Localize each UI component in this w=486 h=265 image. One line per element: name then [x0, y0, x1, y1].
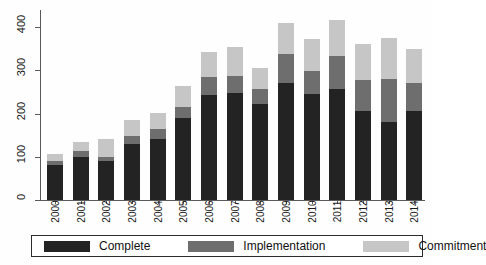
bar-stack	[278, 23, 294, 200]
x-axis-label: 2011	[332, 198, 343, 226]
legend-label-complete: Complete	[99, 239, 150, 253]
bar-segment-implementation	[175, 107, 191, 118]
bar-segment-implementation	[329, 56, 345, 89]
bar-segment-complete	[124, 144, 140, 200]
bar-group	[47, 10, 63, 200]
x-axis-label: 2008	[255, 198, 266, 226]
bar-segment-implementation	[124, 136, 140, 144]
bar-segment-complete	[355, 111, 371, 200]
bar-segment-commitment	[355, 44, 371, 80]
chart-legend: Complete Implementation Commitment	[31, 235, 423, 257]
bar-stack	[150, 113, 166, 200]
y-axis-tick-label: 400	[15, 9, 27, 39]
bar-segment-complete	[406, 111, 422, 200]
bar-stack	[381, 38, 397, 200]
y-axis-tick-label: 0	[15, 182, 27, 212]
bar-group	[98, 10, 114, 200]
legend-item-commitment: Commitment	[351, 236, 486, 256]
bar-segment-commitment	[227, 47, 243, 76]
legend-label-commitment: Commitment	[418, 239, 486, 253]
bar-segment-implementation	[355, 80, 371, 111]
x-axis-label: 2014	[409, 198, 420, 226]
bar-stack	[124, 120, 140, 200]
bar-stack	[304, 39, 320, 200]
plot-area: 0100200300400	[40, 10, 425, 200]
bar-segment-complete	[227, 93, 243, 200]
bar-group	[355, 10, 371, 200]
bar-segment-implementation	[252, 89, 268, 103]
legend-label-implementation: Implementation	[243, 239, 325, 253]
bar-stack	[175, 86, 191, 200]
bar-segment-implementation	[381, 79, 397, 123]
bar-group	[175, 10, 191, 200]
legend-swatch-complete	[44, 241, 90, 252]
bars-container	[40, 10, 425, 200]
bar-stack	[227, 47, 243, 200]
x-axis-label: 2009	[280, 198, 291, 226]
x-axis-label: 2013	[383, 198, 394, 226]
bar-segment-commitment	[252, 68, 268, 90]
y-axis-tick-label: 200	[15, 96, 27, 126]
bar-group	[150, 10, 166, 200]
bar-segment-implementation	[304, 71, 320, 94]
bar-segment-commitment	[304, 39, 320, 71]
y-axis-tick	[35, 200, 40, 201]
bar-segment-implementation	[201, 77, 217, 94]
bar-stack	[329, 20, 345, 200]
bar-segment-complete	[304, 94, 320, 200]
legend-swatch-implementation	[188, 241, 234, 252]
legend-swatch-commitment	[363, 241, 409, 252]
x-axis-label: 2000	[49, 198, 60, 226]
bar-segment-commitment	[47, 154, 63, 161]
bar-group	[329, 10, 345, 200]
legend-item-complete: Complete	[32, 236, 150, 256]
bar-group	[406, 10, 422, 200]
bar-stack	[201, 52, 217, 200]
bar-segment-complete	[201, 95, 217, 200]
x-axis-label: 2010	[306, 198, 317, 226]
bar-segment-commitment	[201, 52, 217, 77]
bar-segment-implementation	[150, 129, 166, 139]
x-axis-label: 2012	[357, 198, 368, 226]
bar-group	[73, 10, 89, 200]
bar-group	[124, 10, 140, 200]
bar-stack	[73, 142, 89, 200]
bar-group	[201, 10, 217, 200]
bar-stack	[252, 68, 268, 200]
x-axis-label: 2004	[152, 198, 163, 226]
bar-segment-complete	[381, 122, 397, 200]
bar-segment-commitment	[124, 120, 140, 136]
x-axis-label: 2002	[101, 198, 112, 226]
bar-segment-complete	[73, 157, 89, 200]
bar-segment-commitment	[278, 23, 294, 54]
legend-item-implementation: Implementation	[176, 236, 325, 256]
bar-segment-commitment	[73, 142, 89, 152]
x-axis-label: 2006	[203, 198, 214, 226]
bar-segment-complete	[98, 161, 114, 200]
bar-segment-commitment	[406, 49, 422, 84]
bar-stack	[355, 44, 371, 200]
bar-group	[381, 10, 397, 200]
bar-stack	[47, 154, 63, 200]
bar-segment-commitment	[175, 86, 191, 107]
bar-segment-commitment	[381, 38, 397, 79]
x-axis-label: 2005	[178, 198, 189, 226]
bar-group	[304, 10, 320, 200]
bar-group	[252, 10, 268, 200]
bar-group	[227, 10, 243, 200]
bar-segment-complete	[175, 118, 191, 200]
bar-segment-commitment	[329, 20, 345, 57]
y-axis-tick-label: 100	[15, 139, 27, 169]
x-axis-label: 2007	[229, 198, 240, 226]
bar-segment-implementation	[278, 54, 294, 83]
bar-stack	[406, 49, 422, 200]
bar-segment-commitment	[150, 113, 166, 129]
x-axis-label: 2001	[75, 198, 86, 226]
bar-segment-complete	[47, 165, 63, 200]
bar-segment-complete	[150, 139, 166, 200]
y-axis-tick-label: 300	[15, 52, 27, 82]
bar-segment-complete	[278, 83, 294, 200]
bar-segment-complete	[252, 104, 268, 200]
bar-segment-implementation	[227, 76, 243, 93]
